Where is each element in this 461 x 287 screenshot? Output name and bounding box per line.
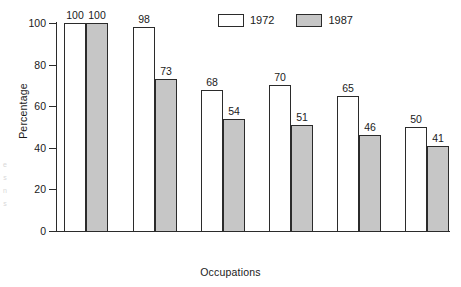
bar-value-label: 100 bbox=[88, 10, 106, 21]
bar-group: 100100Professional & Technical bbox=[64, 23, 108, 231]
y-axis-tick bbox=[49, 189, 57, 190]
bar-1972: 50 bbox=[405, 127, 427, 231]
bar-1972: 68 bbox=[201, 90, 223, 231]
bar-value-label: 54 bbox=[228, 106, 240, 117]
y-axis-tick bbox=[49, 148, 57, 149]
bar-1987: 46 bbox=[359, 135, 381, 231]
y-axis-title: Percentage bbox=[17, 71, 29, 151]
y-axis-tick bbox=[49, 65, 57, 66]
bar-1987: 51 bbox=[291, 125, 313, 231]
bar-group: 7051Laborers bbox=[269, 23, 313, 231]
y-axis-tick-label: 100 bbox=[2, 18, 46, 28]
bar-1972: 65 bbox=[337, 96, 359, 231]
bar-group: 6854Clerical Workers bbox=[201, 23, 245, 231]
bar-value-label: 65 bbox=[342, 83, 354, 94]
page-margin-artifact: e s n s bbox=[1, 158, 9, 278]
y-axis-tick bbox=[49, 106, 57, 107]
bar-1987: 54 bbox=[223, 119, 245, 231]
bar-value-label: 70 bbox=[274, 72, 286, 83]
bar-1987: 73 bbox=[155, 79, 177, 231]
x-axis-title: Occupations bbox=[0, 266, 461, 278]
bar-chart-figure: 020406080100 Percentage Occupations 1972… bbox=[0, 0, 461, 287]
bar-value-label: 41 bbox=[432, 133, 444, 144]
y-axis-tick-label: 80 bbox=[2, 60, 46, 70]
bar-value-label: 73 bbox=[160, 66, 172, 77]
bar-value-label: 46 bbox=[364, 122, 376, 133]
bar-group: 5041Health Aides bbox=[405, 23, 449, 231]
x-axis-line bbox=[56, 231, 450, 232]
bar-value-label: 50 bbox=[410, 114, 422, 125]
bar-1987: 100 bbox=[86, 23, 108, 231]
bar-group: 6546Retail Sales bbox=[337, 23, 381, 231]
bar-value-label: 98 bbox=[138, 14, 150, 25]
bar-value-label: 68 bbox=[206, 77, 218, 88]
y-axis-tick bbox=[49, 23, 57, 24]
bar-1972: 70 bbox=[269, 85, 291, 231]
bar-group: 9873Craft Workers bbox=[133, 23, 177, 231]
y-axis-tick bbox=[49, 231, 57, 232]
bar-1972: 100 bbox=[64, 23, 86, 231]
bar-value-label: 51 bbox=[296, 112, 308, 123]
bar-1987: 41 bbox=[427, 146, 449, 231]
bar-value-label: 100 bbox=[66, 10, 84, 21]
plot-area: 100100Professional & Technical9873Craft … bbox=[57, 23, 450, 231]
bar-1972: 98 bbox=[133, 27, 155, 231]
